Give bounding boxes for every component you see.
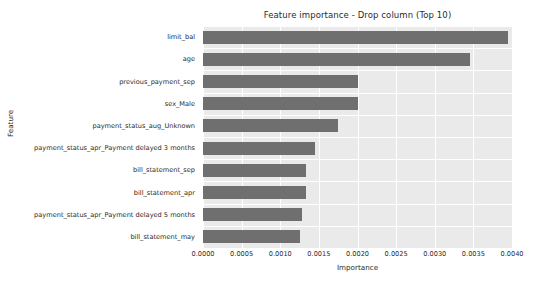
bar [203, 31, 508, 44]
x-tick-label: 0.0035 [462, 250, 485, 258]
gridline-horizontal [203, 48, 512, 49]
plot-area [203, 26, 512, 248]
gridline-horizontal [203, 137, 512, 138]
y-tick-label: bill_statement_apr [134, 189, 195, 197]
y-tick-label: payment_status_apr_Payment delayed 3 mon… [34, 144, 195, 152]
chart-title: Feature importance - Drop column (Top 10… [203, 10, 512, 20]
bar [203, 75, 358, 88]
bar [203, 230, 300, 243]
x-tick-label: 0.0020 [346, 250, 369, 258]
gridline-horizontal [203, 26, 512, 27]
x-tick-label: 0.0000 [191, 250, 214, 258]
gridline-horizontal [203, 93, 512, 94]
gridline-horizontal [203, 159, 512, 160]
x-axis-tick-labels: 0.00000.00050.00100.00150.00200.00250.00… [203, 250, 512, 262]
x-axis-title: Importance [203, 263, 512, 272]
gridline-horizontal [203, 226, 512, 227]
chart-figure: Feature importance - Drop column (Top 10… [0, 0, 537, 286]
y-tick-label: bill_statement_may [130, 233, 195, 241]
bar [203, 142, 315, 155]
bar [203, 186, 306, 199]
x-tick-label: 0.0005 [230, 250, 253, 258]
bar [203, 53, 470, 66]
y-tick-label: sex_Male [165, 100, 195, 108]
y-tick-label: previous_payment_sep [119, 78, 195, 86]
y-tick-label: age [183, 55, 195, 63]
bar [203, 208, 302, 221]
y-tick-label: bill_statement_sep [133, 166, 195, 174]
x-tick-label: 0.0015 [307, 250, 330, 258]
x-tick-label: 0.0040 [500, 250, 523, 258]
x-tick-label: 0.0010 [269, 250, 292, 258]
y-axis-tick-labels: limit_balageprevious_payment_sepsex_Male… [0, 26, 199, 248]
x-tick-label: 0.0030 [423, 250, 446, 258]
gridline-horizontal [203, 181, 512, 182]
y-tick-label: payment_status_apr_Payment delayed 5 mon… [34, 211, 195, 219]
gridline-horizontal [203, 70, 512, 71]
y-axis-title: Feature [6, 110, 15, 137]
bar [203, 164, 306, 177]
bar [203, 119, 338, 132]
bar [203, 97, 358, 110]
gridline-horizontal [203, 115, 512, 116]
y-tick-label: payment_status_aug_Unknown [92, 122, 195, 130]
y-tick-label: limit_bal [167, 33, 195, 41]
x-tick-label: 0.0025 [385, 250, 408, 258]
gridline-horizontal [203, 204, 512, 205]
